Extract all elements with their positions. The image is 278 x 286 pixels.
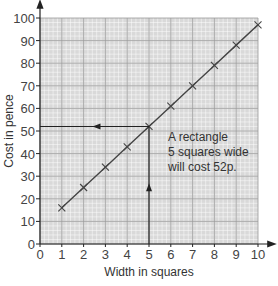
y-tick-label: 40 bbox=[21, 147, 35, 162]
y-tick-label: 60 bbox=[21, 101, 35, 116]
x-tick-label: 5 bbox=[145, 247, 152, 262]
y-tick-label: 70 bbox=[21, 79, 35, 94]
annotation-line: 5 squares wide bbox=[168, 145, 249, 159]
x-tick-label: 7 bbox=[189, 247, 196, 262]
x-tick-label: 1 bbox=[58, 247, 65, 262]
y-tick-label: 20 bbox=[21, 192, 35, 207]
y-tick-label: 0 bbox=[28, 237, 35, 252]
y-tick-label: 10 bbox=[21, 214, 35, 229]
y-tick-label: 80 bbox=[21, 56, 35, 71]
x-tick-label: 9 bbox=[233, 247, 240, 262]
line-chart: 0123456789100102030405060708090100 Width… bbox=[0, 0, 278, 286]
x-axis-title: Width in squares bbox=[104, 265, 193, 279]
y-tick-label: 90 bbox=[21, 34, 35, 49]
y-tick-label: 30 bbox=[21, 169, 35, 184]
x-tick-label: 6 bbox=[167, 247, 174, 262]
annotation-line: A rectangle bbox=[168, 130, 228, 144]
y-axis-title: Cost in pence bbox=[2, 94, 16, 168]
x-tick-label: 8 bbox=[211, 247, 218, 262]
x-tick-label: 4 bbox=[124, 247, 131, 262]
x-tick-label: 3 bbox=[102, 247, 109, 262]
x-tick-label: 0 bbox=[36, 247, 43, 262]
x-tick-label: 10 bbox=[251, 247, 265, 262]
x-tick-label: 2 bbox=[80, 247, 87, 262]
y-tick-label: 50 bbox=[21, 124, 35, 139]
y-tick-label: 100 bbox=[13, 11, 35, 26]
annotation-line: will cost 52p. bbox=[167, 160, 237, 174]
